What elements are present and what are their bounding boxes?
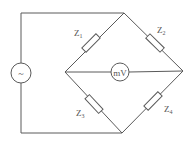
label-z1: Z1 <box>74 28 83 39</box>
ac-source-symbol: ~ <box>18 68 24 79</box>
impedance-z1 <box>82 34 100 52</box>
bridge-circuit-diagram: ~ mV Z1 Z2 Z3 Z4 <box>0 0 191 141</box>
bottom-wire <box>21 83 122 133</box>
impedance-z4 <box>144 92 162 110</box>
top-wire <box>21 13 124 63</box>
label-z2: Z2 <box>157 25 166 36</box>
meter-wire-right <box>129 71 183 72</box>
impedance-z3 <box>85 95 103 114</box>
impedance-z2 <box>146 34 164 52</box>
label-z3: Z3 <box>76 108 85 119</box>
meter-label: mV <box>113 68 127 78</box>
label-z4: Z4 <box>164 104 173 115</box>
